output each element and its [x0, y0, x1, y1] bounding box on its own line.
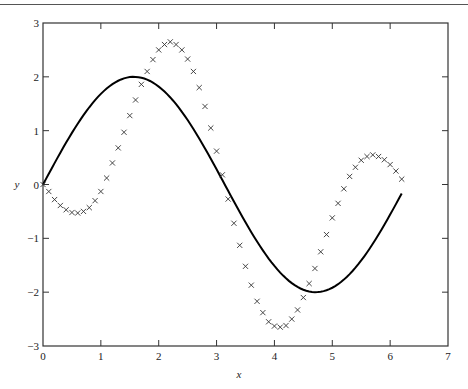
- x-marker-icon: [312, 266, 317, 271]
- x-marker-icon: [324, 232, 329, 237]
- x-marker-icon: [214, 149, 219, 154]
- y-tick-label: −1: [27, 232, 39, 244]
- x-marker-icon: [156, 47, 161, 52]
- x-tick-label: 1: [98, 350, 104, 362]
- x-marker-icon: [139, 82, 144, 87]
- x-marker-icon: [353, 165, 358, 170]
- x-tick-label: 6: [387, 350, 393, 362]
- x-marker-icon: [347, 174, 352, 179]
- x-marker-icon: [393, 168, 398, 173]
- x-marker-icon: [121, 130, 126, 135]
- x-marker-icon: [191, 69, 196, 74]
- y-tick-label: 3: [34, 17, 40, 29]
- y-axis-label: y: [14, 178, 20, 190]
- x-tick-label: 3: [214, 350, 220, 362]
- x-marker-icon: [388, 162, 393, 167]
- x-marker-icon: [179, 47, 184, 52]
- plot-frame: [43, 23, 448, 346]
- x-marker-icon: [370, 152, 375, 157]
- x-marker-icon: [52, 197, 57, 202]
- y-tick-label: 2: [34, 71, 40, 83]
- x-marker-icon: [127, 113, 132, 118]
- x-marker-icon: [145, 69, 150, 74]
- y-tick-label: 1: [34, 125, 40, 137]
- x-marker-icon: [98, 189, 103, 194]
- y-tick-label: −3: [27, 340, 39, 352]
- x-marker-icon: [243, 264, 248, 269]
- x-marker-icon: [382, 157, 387, 162]
- x-marker-icon: [92, 198, 97, 203]
- x-marker-icon: [295, 307, 300, 312]
- x-marker-icon: [237, 243, 242, 248]
- chart: 012345673210−1−2−3 x y: [0, 0, 468, 389]
- x-marker-icon: [150, 57, 155, 62]
- x-tick-label: 4: [272, 350, 278, 362]
- x-tick-label: 2: [156, 350, 162, 362]
- x-marker-icon: [116, 145, 121, 150]
- x-marker-icon: [330, 215, 335, 220]
- x-marker-icon: [226, 196, 231, 201]
- x-marker-icon: [266, 319, 271, 324]
- x-marker-icon: [254, 299, 259, 304]
- x-marker-icon: [289, 316, 294, 321]
- x-marker-icon: [208, 125, 213, 130]
- x-marker-icon: [133, 97, 138, 102]
- x-marker-icon: [104, 175, 109, 180]
- x-marker-icon: [110, 160, 115, 165]
- x-marker-icon: [341, 186, 346, 191]
- x-marker-icon: [69, 210, 74, 215]
- x-tick-label: 7: [445, 350, 451, 362]
- x-marker-icon: [75, 210, 80, 215]
- x-marker-icon: [249, 283, 254, 288]
- y-tick-label: 0: [34, 179, 40, 191]
- plot-axes: 012345673210−1−2−3: [27, 17, 451, 362]
- x-marker-icon: [278, 325, 283, 330]
- x-marker-icon: [364, 154, 369, 159]
- x-marker-icon: [197, 85, 202, 90]
- x-tick-label: 0: [40, 350, 46, 362]
- x-marker-icon: [231, 221, 236, 226]
- x-tick-label: 5: [330, 350, 336, 362]
- x-marker-icon: [359, 158, 364, 163]
- x-marker-icon: [307, 281, 312, 286]
- x-marker-icon: [162, 42, 167, 47]
- x-marker-icon: [260, 310, 265, 315]
- x-marker-icon: [399, 177, 404, 182]
- x-marker-icon: [81, 209, 86, 214]
- x-axis-label: x: [236, 368, 242, 380]
- y-tick-label: −2: [27, 286, 39, 298]
- x-marker-icon: [46, 189, 51, 194]
- x-marker-icon: [335, 201, 340, 206]
- x-marker-icon: [318, 249, 323, 254]
- marker-series: [40, 39, 404, 330]
- x-marker-icon: [64, 207, 69, 212]
- x-marker-icon: [376, 154, 381, 159]
- x-marker-icon: [283, 323, 288, 328]
- x-marker-icon: [272, 323, 277, 328]
- sine-curve: [43, 77, 402, 292]
- x-marker-icon: [202, 104, 207, 109]
- curve-series: [43, 77, 402, 292]
- x-marker-icon: [301, 295, 306, 300]
- x-marker-icon: [168, 39, 173, 44]
- x-marker-icon: [58, 203, 63, 208]
- x-marker-icon: [173, 42, 178, 47]
- x-marker-icon: [87, 205, 92, 210]
- x-marker-icon: [185, 56, 190, 61]
